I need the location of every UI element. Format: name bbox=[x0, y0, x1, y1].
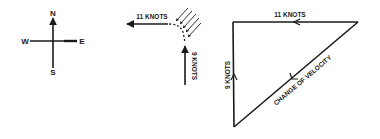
compass-east-label: E bbox=[79, 37, 85, 46]
force-arrows-icon bbox=[176, 8, 201, 37]
curved-path-dashed bbox=[169, 24, 185, 42]
triangle-hypotenuse bbox=[234, 22, 358, 127]
vector-triangle: 11 KNOTS 9 KNOTS CHANGE OF VELOCITY bbox=[224, 11, 358, 127]
compass-south-label: S bbox=[50, 68, 56, 77]
triangle-nine-knots-label: 9 KNOTS bbox=[224, 60, 231, 89]
change-of-velocity-label: CHANGE OF VELOCITY bbox=[272, 53, 333, 106]
compass-rose: N S E W bbox=[21, 9, 85, 77]
turning-path-figure: 11 KNOTS 9 KNOTS bbox=[127, 8, 201, 85]
middle-eleven-knots-label: 11 KNOTS bbox=[136, 13, 168, 20]
triangle-eleven-knots-label: 11 KNOTS bbox=[274, 11, 306, 18]
compass-west-label: W bbox=[21, 37, 29, 46]
compass-north-label: N bbox=[50, 9, 56, 18]
middle-nine-knots-label: 9 KNOTS bbox=[191, 52, 198, 81]
velocity-diagram: N S E W 11 KNOTS 9 KNOTS 11 KNOTS 9 KNOT… bbox=[0, 0, 380, 139]
